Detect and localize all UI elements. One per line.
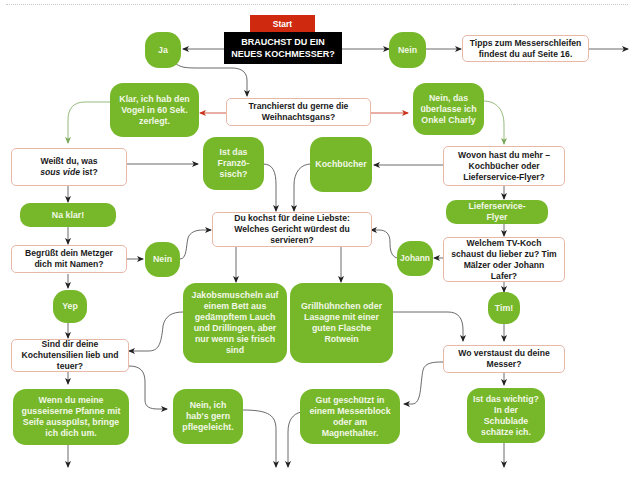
answer-nein-top: Nein [389,32,426,68]
question-wovon: Wovon hast du mehr – Kochbücher oder Lie… [443,146,565,186]
answer-ja: Ja [145,32,181,68]
answer-nein-metzger: Nein [145,242,180,277]
answer-franzoesisch: Ist das Franzö-sisch? [203,137,264,190]
answer-jakobsmuscheln: Jakobsmuscheln auf einem Bett aus gedämp… [183,283,287,363]
answer-messerblock: Gut geschützt in einem Messerblock oder … [300,389,400,444]
answer-johann: Johann [397,241,433,276]
question-kochutensilien: Sind dir deine Kochutensilien lieb und t… [11,339,129,372]
answer-tim: Tim! [488,292,520,324]
question-tv-koch: Welchem TV-Koch schaust du lieber zu? Ti… [443,237,565,282]
answer-klar-vogel: Klar, ich hab den Vogel in 60 Sek. zerle… [110,83,199,137]
answer-yep: Yep [53,290,87,323]
start-label: Start [250,15,315,32]
question-metzger: Begrüßt dein Metzger dich mit Namen? [11,245,127,273]
sous-vide-text-pre: Weißt du, was [40,156,97,167]
answer-gusseiserne-pfanne: Wenn du meine gusseiserne Pfanne mit Sei… [13,389,129,445]
answer-kochbuecher: Kochbücher [310,137,372,192]
answer-schublade: Ist das wichtig? In der Schublade schätz… [467,388,545,443]
answer-na-klar: Na klar! [20,203,116,227]
question-sous-vide: Weißt du, wassous vide ist? [11,148,127,186]
answer-pflegeleicht: Nein, ich hab's gern pflegeleicht. [173,389,243,444]
tipps-box: Tipps zum Messerschleifen findest du auf… [462,35,589,62]
answer-lieferservice-flyer: Lieferservice-Flyer [446,200,548,224]
sous-vide-italic: sous vide [40,167,80,177]
question-wo-verstaust: Wo verstaust du deine Messer? [443,345,565,373]
main-question: BRAUCHST DU EIN NEUES KOCHMESSER? [224,32,342,64]
sous-vide-text: Weißt du, wassous vide ist? [40,156,97,178]
answer-nein-onkel: Nein, das überlasse ich Onkel Charly [413,83,484,135]
question-tranchierst: Tranchierst du gerne die Weihnachtsgans? [226,98,371,126]
question-du-kochst: Du kochst für deine Liebste: Welches Ger… [212,212,372,247]
answer-grillhuehnchen: Grillhühnchen oder Lasagne mit einer gut… [290,283,393,363]
sous-vide-text-post: ist? [82,167,97,177]
